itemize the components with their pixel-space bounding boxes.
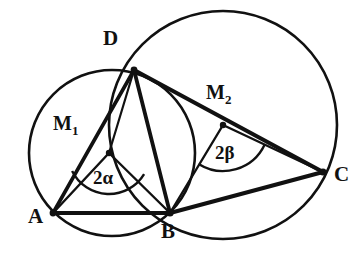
center-label-m2: M2 [206,82,231,106]
center-label-m1-subscript: 1 [72,123,79,138]
point-label-c: C [334,164,349,185]
vertex-dot-d [131,67,138,74]
point-label-b: B [161,221,175,242]
vertex-dot-a [50,210,57,217]
center-label-m2-subscript: 2 [225,92,232,107]
center-dot-m2 [220,122,226,128]
segment-m1d [109,70,134,153]
point-label-d: D [103,28,118,49]
vertex-dot-c [319,168,326,175]
vertex-dot-b [166,209,173,216]
angle-label-2beta: 2β [215,143,235,162]
segment-m2c [223,125,323,172]
center-label-m2-letter: M [206,81,225,103]
center-dot-m1 [106,150,112,156]
diagram-canvas: A B C D M1 M2 2α 2β [0,0,361,266]
vertex-dots-group [50,67,327,217]
center-label-m1: M1 [53,113,78,137]
angle-label-2alpha: 2α [93,168,113,187]
point-label-a: A [28,206,43,227]
center-label-m1-letter: M [53,112,72,134]
segment-db [134,70,170,213]
segment-bc [170,172,323,213]
